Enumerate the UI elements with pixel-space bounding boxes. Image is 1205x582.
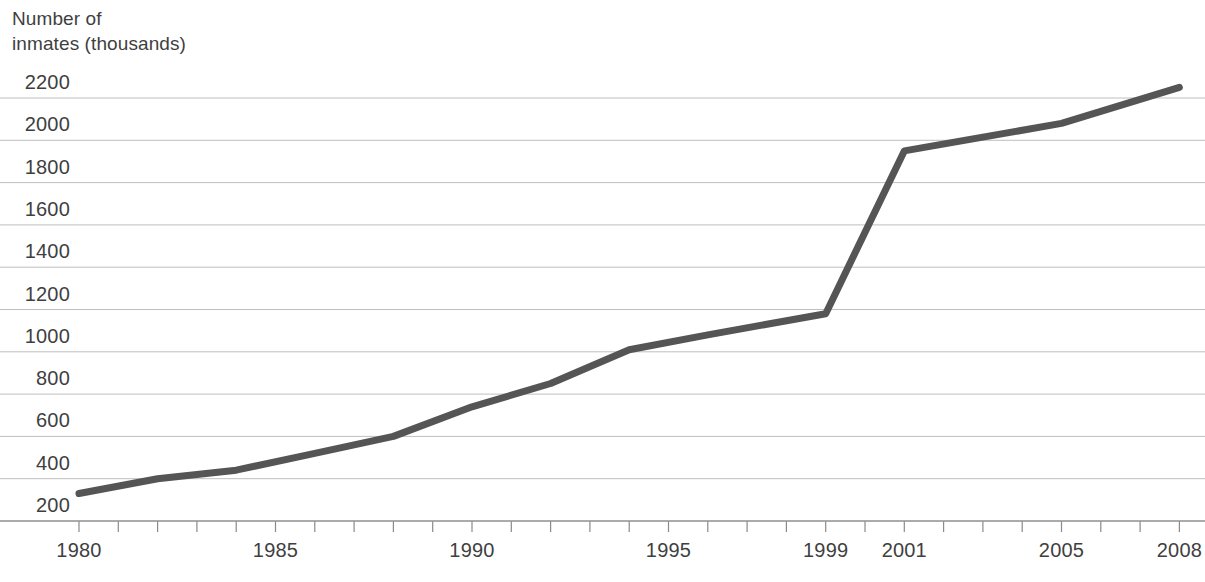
x-axis-tick-label: 1995 [646, 539, 691, 562]
y-axis-tick-label: 800 [6, 367, 70, 390]
chart-container: Number of inmates (thousands) 2004006008… [0, 0, 1205, 582]
y-axis-tick-label: 1600 [6, 198, 70, 221]
y-axis-tick-label: 1800 [6, 156, 70, 179]
x-axis-tick-label: 2001 [882, 539, 927, 562]
y-axis-tick-label: 600 [6, 409, 70, 432]
x-axis-tick-label: 1985 [253, 539, 298, 562]
y-axis-tick-label: 1400 [6, 240, 70, 263]
x-axis-tick-label: 1999 [803, 539, 848, 562]
x-axis-tick-label: 1980 [56, 539, 101, 562]
y-axis-tick-label: 1200 [6, 283, 70, 306]
x-axis-tick-label: 2005 [1039, 539, 1084, 562]
chart-plot-area [0, 0, 1205, 582]
data-series-line [79, 87, 1179, 493]
y-axis-tick-label: 400 [6, 452, 70, 475]
x-tick-marks [79, 521, 1179, 532]
gridline-group [0, 98, 1205, 521]
y-axis-tick-labels: 2004006008001000120014001600180020002200 [0, 0, 70, 582]
x-axis-tick-label: 1990 [449, 539, 494, 562]
y-axis-tick-label: 2000 [6, 113, 70, 136]
y-axis-tick-label: 1000 [6, 325, 70, 348]
y-axis-tick-label: 2200 [6, 71, 70, 94]
x-axis-tick-label: 2008 [1157, 539, 1202, 562]
y-axis-tick-label: 200 [6, 494, 70, 517]
